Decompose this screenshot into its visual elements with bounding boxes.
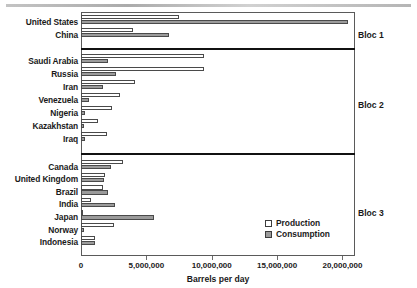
bloc-label: Bloc 1 — [358, 30, 384, 40]
x-tick-label: 10,000,000 — [192, 261, 232, 270]
bar-cons — [81, 59, 108, 63]
bar-cons — [81, 203, 115, 207]
category-label: Japan — [54, 213, 78, 221]
bar-cons — [81, 20, 348, 24]
category-label: China — [55, 31, 78, 39]
oil-production-consumption-chart: United StatesChinaSaudi ArabiaRussiaIran… — [0, 0, 417, 288]
bar-prod — [81, 93, 120, 97]
chart-legend: Production Consumption — [265, 218, 330, 240]
bar-prod — [81, 80, 135, 84]
bar-cons — [81, 178, 104, 182]
bar-cons — [81, 85, 103, 89]
bar-prod — [81, 119, 98, 123]
category-label: Canada — [48, 163, 78, 171]
scan-artifact-line — [6, 4, 411, 7]
category-label: Russia — [51, 70, 78, 78]
legend-label-consumption: Consumption — [276, 229, 330, 239]
bar-prod — [81, 28, 133, 32]
bar-prod — [81, 132, 107, 136]
x-axis-title: Barrels per day — [81, 274, 355, 284]
category-label: Iran — [63, 83, 78, 91]
bar-cons — [81, 190, 108, 194]
bar-cons — [81, 111, 85, 115]
bar-cons — [81, 137, 85, 141]
x-tick-label: 20,000,000 — [322, 261, 362, 270]
category-label: India — [59, 200, 78, 208]
bar-prod — [81, 173, 105, 177]
category-axis-labels: United StatesChinaSaudi ArabiaRussiaIran… — [0, 12, 78, 256]
x-tick — [277, 256, 278, 260]
category-label: Brazil — [56, 188, 78, 196]
bar-prod — [81, 54, 204, 58]
x-tick — [342, 256, 343, 260]
bar-cons — [81, 98, 89, 102]
bar-prod — [81, 15, 179, 19]
bar-cons — [81, 215, 154, 219]
bloc-divider — [81, 48, 355, 51]
category-label: United States — [26, 18, 78, 26]
category-label: United Kingdom — [15, 175, 78, 183]
category-label: Saudi Arabia — [28, 57, 78, 65]
x-tick — [146, 256, 147, 260]
legend-swatch-consumption-icon — [265, 231, 272, 238]
legend-item-consumption: Consumption — [265, 229, 330, 239]
category-label: Nigeria — [50, 109, 78, 117]
bar-prod — [81, 223, 114, 227]
x-tick-label: 15,000,000 — [257, 261, 297, 270]
bloc-divider — [81, 153, 355, 156]
bar-prod — [81, 185, 103, 189]
bar-cons — [81, 124, 84, 128]
bar-prod — [81, 106, 112, 110]
bar-cons — [81, 241, 95, 245]
bar-prod — [81, 67, 204, 71]
legend-item-production: Production — [265, 218, 330, 228]
bar-cons — [81, 33, 169, 37]
bar-prod — [81, 160, 123, 164]
category-label: Norway — [48, 226, 78, 234]
bar-prod — [81, 236, 95, 240]
bloc-label: Bloc 2 — [358, 100, 384, 110]
x-tick-label: 0 — [79, 261, 83, 270]
bar-prod — [81, 198, 91, 202]
category-label: Venezuela — [38, 96, 78, 104]
bar-cons — [81, 165, 111, 169]
bloc-label: Bloc 3 — [358, 208, 384, 218]
bar-prod — [81, 210, 83, 214]
legend-label-production: Production — [276, 218, 320, 228]
x-tick-label: 5,000,000 — [129, 261, 165, 270]
legend-swatch-production-icon — [265, 220, 272, 227]
category-label: Kazakhstan — [32, 122, 78, 130]
category-label: Iraq — [63, 135, 78, 143]
bar-cons — [81, 228, 84, 232]
bar-cons — [81, 72, 116, 76]
x-tick — [212, 256, 213, 260]
category-label: Indonesia — [40, 238, 78, 246]
